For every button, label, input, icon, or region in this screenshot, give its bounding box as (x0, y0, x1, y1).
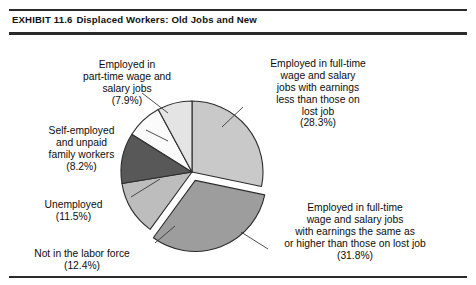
exhibit-title-text: Displaced Workers: Old Jobs and New (76, 14, 256, 25)
pie-label-lessthan-pct: (28.3%) (233, 117, 403, 129)
pie-label-unemployed: Unemployed (11.5%) (8, 187, 139, 235)
exhibit-number: EXHIBIT 11.6 (12, 14, 72, 25)
pie-label-lessthan-text: Employed in full-time wage and salary jo… (270, 58, 366, 117)
pie-label-sameorhigher-text: Employed in full-time wage and salary jo… (284, 202, 425, 249)
pie-label-parttime-text: Employed in part-time wage and salary jo… (83, 59, 171, 94)
pie-label-sameorhigher-pct: (31.8%) (253, 250, 457, 262)
pie-label-notinlaborforce-text: Not in the labor force (34, 248, 130, 259)
pie-chart: Employed in part-time wage and salary jo… (0, 35, 476, 276)
pie-label-parttime: Employed in part-time wage and salary jo… (57, 47, 197, 118)
exhibit-figure: EXHIBIT 11.6Displaced Workers: Old Jobs … (0, 0, 476, 285)
pie-label-notinlaborforce-pct: (12.4%) (2, 260, 162, 272)
pie-label-selfemployed-pct: (8.2%) (14, 161, 149, 173)
pie-label-unemployed-text: Unemployed (45, 199, 103, 210)
pie-label-selfemployed-text: Self-employed and unpaid family workers (49, 125, 115, 160)
top-rule (9, 9, 467, 11)
pie-label-lessthan: Employed in full-time wage and salary jo… (233, 46, 403, 141)
bottom-rule (9, 276, 467, 278)
pie-label-sameorhigher: Employed in full-time wage and salary jo… (253, 190, 457, 273)
exhibit-title: EXHIBIT 11.6Displaced Workers: Old Jobs … (12, 14, 257, 25)
pie-label-parttime-pct: (7.9%) (57, 95, 197, 107)
pie-label-selfemployed: Self-employed and unpaid family workers … (14, 113, 149, 184)
pie-label-unemployed-pct: (11.5%) (8, 211, 139, 223)
